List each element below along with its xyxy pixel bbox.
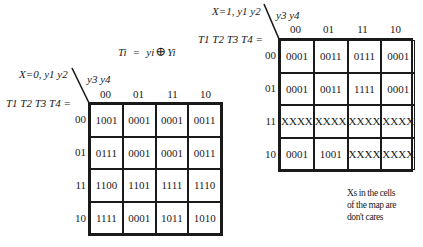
xor-icon: ⊕: [155, 44, 166, 59]
right-map-condition-label: X=1, y1 y2: [212, 5, 261, 17]
dont-care-note: Xs in the cells of the map are don't car…: [347, 187, 396, 223]
left-map-condition-label: X=0, y1 y2: [19, 68, 68, 80]
map-cell: 1110: [188, 169, 221, 202]
note-line: Xs in the cells: [347, 187, 396, 199]
equation-equals: =: [133, 46, 139, 58]
left-map-row-header: 00: [70, 113, 86, 125]
map-cell: 0011: [188, 137, 221, 170]
left-map-row-header: 01: [70, 146, 86, 158]
map-cell: 0001: [123, 137, 156, 170]
equation-term1: yi: [146, 46, 154, 58]
right-map-col-header: 10: [379, 23, 412, 35]
right-map-row-header: 10: [260, 148, 276, 160]
map-cell: 0111: [348, 40, 382, 73]
map-cell: 1010: [188, 202, 221, 235]
map-cell: 0001: [156, 104, 189, 137]
right-map-row-header: 11: [260, 115, 276, 127]
map-cell: XXXX: [348, 105, 382, 138]
left-map-row-header: 11: [70, 179, 86, 191]
map-cell: XXXX: [348, 138, 382, 171]
map-cell: 0001: [381, 73, 415, 106]
left-map-output-label: T1 T2 T3 T4 =: [6, 97, 71, 109]
map-cell: 1001: [90, 104, 123, 137]
map-cell: 0111: [90, 137, 123, 170]
map-cell: 1111: [348, 73, 382, 106]
right-map-row-header: 00: [260, 49, 276, 61]
map-cell: 1111: [90, 202, 123, 235]
right-map-output-label: T1 T2 T3 T4 =: [198, 33, 263, 45]
map-cell: 0001: [156, 137, 189, 170]
equation: Ti = yi⊕Yi: [118, 44, 176, 60]
left-karnaugh-map: 1001 0001 0001 0011 0111 0001 0001 0011 …: [88, 102, 223, 236]
right-karnaugh-map: 0001 0011 0111 0001 0001 0011 1111 0001 …: [278, 38, 413, 172]
left-map-col-header: 01: [122, 88, 155, 100]
map-cell: XXXX: [381, 138, 415, 171]
map-cell: 0001: [280, 73, 314, 106]
right-map-col-header: 01: [312, 23, 345, 35]
equation-lhs: Ti: [118, 46, 127, 58]
left-map-col-var-label: y3 y4: [87, 73, 111, 85]
left-map-row-header: 10: [70, 212, 86, 224]
map-cell: 0001: [381, 40, 415, 73]
map-cell: 0001: [123, 202, 156, 235]
map-cell: XXXX: [280, 105, 314, 138]
note-line: of the map are: [347, 199, 396, 211]
map-cell: 0011: [188, 104, 221, 137]
right-map-col-header: 11: [346, 23, 379, 35]
right-map-row-header: 01: [260, 82, 276, 94]
map-cell: 0011: [314, 73, 348, 106]
map-cell: 0011: [314, 40, 348, 73]
map-cell: 0001: [123, 104, 156, 137]
map-cell: 1001: [314, 138, 348, 171]
map-cell: 1100: [90, 169, 123, 202]
map-cell: XXXX: [314, 105, 348, 138]
map-cell: 0001: [280, 40, 314, 73]
map-cell: 1111: [156, 169, 189, 202]
right-map-col-header: 00: [279, 23, 312, 35]
map-cell: 0001: [280, 138, 314, 171]
note-line: don't cares: [347, 211, 396, 223]
left-map-col-header: 11: [156, 88, 189, 100]
left-map-col-header: 10: [189, 88, 222, 100]
equation-term2: Yi: [167, 46, 175, 58]
right-map-col-var-label: y3 y4: [276, 9, 300, 21]
map-cell: 1011: [156, 202, 189, 235]
map-cell: 1101: [123, 169, 156, 202]
map-cell: XXXX: [381, 105, 415, 138]
left-map-col-header: 00: [89, 88, 122, 100]
